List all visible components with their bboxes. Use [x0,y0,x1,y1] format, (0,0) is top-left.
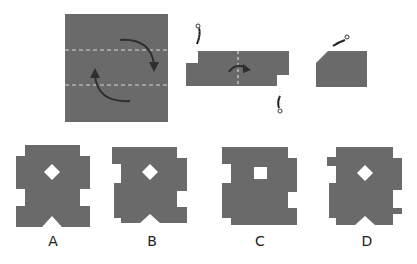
option-a-shape[interactable] [16,145,90,227]
scissors-icon [333,35,349,46]
step-3-piece [316,35,367,87]
folded-strip [186,51,289,86]
step-2-strip [186,22,289,116]
option-b-shape[interactable] [112,147,187,223]
scissors-icon [196,22,200,48]
option-label-d[interactable]: D [357,233,377,249]
option-c-shape[interactable] [222,147,297,225]
option-d-shape[interactable] [327,147,402,225]
paper-folding-diagram [0,0,417,264]
square-hole [254,167,267,179]
option-label-c[interactable]: C [250,233,270,249]
option-label-a[interactable]: A [43,233,63,249]
step-1-square [65,14,168,122]
option-label-b[interactable]: B [142,233,162,249]
folded-piece [316,51,367,87]
scissors-icon [278,88,282,116]
